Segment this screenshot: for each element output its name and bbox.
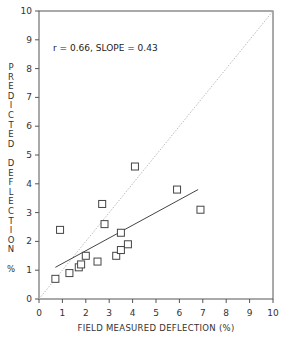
y-tick-label: 7 bbox=[26, 92, 32, 102]
y-axis-title-char: D bbox=[8, 158, 15, 168]
y-axis-title-char: D bbox=[8, 139, 15, 149]
x-tick-label: 5 bbox=[153, 308, 159, 318]
data-point-square bbox=[117, 229, 124, 236]
y-axis-title: PREDICTEDDEFLECTION% bbox=[7, 62, 15, 274]
y-axis-title-char: I bbox=[10, 225, 13, 235]
regression-line bbox=[55, 190, 198, 268]
x-tick-label: 0 bbox=[36, 308, 42, 318]
y-axis-title-char: I bbox=[10, 100, 13, 110]
y-tick-label: 9 bbox=[26, 35, 32, 45]
data-point-square bbox=[78, 261, 85, 268]
y-axis-title-char: E bbox=[8, 81, 13, 91]
data-point-square bbox=[174, 186, 181, 193]
data-point-square bbox=[124, 241, 131, 248]
y-axis-title-char: T bbox=[7, 216, 14, 226]
y-tick-label: 6 bbox=[26, 121, 32, 131]
data-point-square bbox=[99, 200, 106, 207]
x-tick-label: 8 bbox=[223, 308, 229, 318]
x-tick-label: 6 bbox=[177, 308, 183, 318]
data-point-square bbox=[57, 226, 64, 233]
y-tick-label: 5 bbox=[26, 150, 32, 160]
y-axis-title-char: D bbox=[8, 91, 15, 101]
y-axis-title-char: % bbox=[7, 264, 15, 274]
y-axis-title-char: T bbox=[7, 120, 14, 130]
data-point-square bbox=[101, 221, 108, 228]
x-tick-label: 3 bbox=[106, 308, 112, 318]
y-axis-title-char: P bbox=[8, 62, 13, 72]
y-axis-title-char: F bbox=[9, 177, 14, 187]
y-axis-title-char: R bbox=[8, 72, 14, 82]
y-axis-title-char: E bbox=[8, 129, 13, 139]
y-tick-label: 2 bbox=[26, 236, 32, 246]
y-tick-label: 3 bbox=[26, 208, 32, 218]
x-tick-label: 1 bbox=[60, 308, 66, 318]
y-tick-label: 10 bbox=[21, 6, 33, 16]
x-tick-label: 2 bbox=[83, 308, 89, 318]
y-axis-title-char: E bbox=[8, 168, 13, 178]
data-point-square bbox=[66, 270, 73, 277]
x-tick-label: 4 bbox=[130, 308, 136, 318]
regression-line-path bbox=[55, 190, 198, 268]
data-point-square bbox=[94, 258, 101, 265]
data-point-square bbox=[197, 206, 204, 213]
scatter-chart: 012345678910012345678910 r = 0.66, SLOPE… bbox=[0, 0, 286, 346]
y-axis-title-char: O bbox=[8, 235, 15, 245]
x-tick-label: 7 bbox=[200, 308, 206, 318]
x-axis-title: FIELD MEASURED DEFLECTION (%) bbox=[77, 323, 234, 333]
y-tick-label: 8 bbox=[26, 64, 32, 74]
one-to-one-line-path bbox=[39, 11, 273, 299]
x-tick-label: 9 bbox=[247, 308, 253, 318]
one-to-one-line bbox=[39, 11, 273, 299]
y-axis-title-char: E bbox=[8, 196, 13, 206]
data-point-square bbox=[52, 275, 59, 282]
data-point-square bbox=[117, 247, 124, 254]
x-tick-label: 10 bbox=[267, 308, 279, 318]
data-points bbox=[52, 163, 204, 282]
y-tick-label: 1 bbox=[26, 265, 32, 275]
y-tick-label: 0 bbox=[26, 294, 32, 304]
data-point-square bbox=[131, 163, 138, 170]
y-axis-title-char: L bbox=[9, 187, 14, 197]
y-axis-title-char: N bbox=[8, 244, 14, 254]
y-axis-title-char: C bbox=[8, 206, 14, 216]
correlation-annotation: r = 0.66, SLOPE = 0.43 bbox=[53, 43, 158, 53]
y-axis-title-char: C bbox=[8, 110, 14, 120]
data-point-square bbox=[82, 252, 89, 259]
y-tick-label: 4 bbox=[26, 179, 32, 189]
